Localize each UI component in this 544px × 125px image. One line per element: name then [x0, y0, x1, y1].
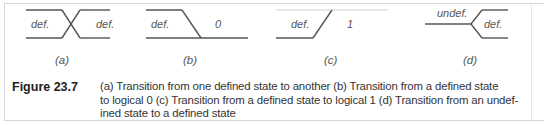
figure-number: Figure 23.7	[12, 80, 78, 94]
timing-transition-diagram: def. def. (a) def. 0 (b) def. 1 (c) unde…	[0, 0, 536, 70]
panel-d-sublabel: (d)	[463, 54, 477, 66]
panel-b-right-label: 0	[215, 18, 222, 30]
panel-c-right-label: 1	[347, 18, 353, 30]
panel-a-right-label: def.	[96, 18, 114, 30]
caption-line-1: (a) Transition from one defined state to…	[100, 80, 536, 94]
panel-a-sublabel: (a)	[55, 54, 69, 66]
caption-line-2: to logical 0 (c) Transition from a defin…	[100, 94, 536, 108]
panel-d-right-label: def.	[484, 18, 502, 30]
caption-line-3: ined state to a defined state	[100, 107, 536, 121]
panel-d-left-label: undef.	[437, 7, 468, 19]
panel-c-sublabel: (c)	[324, 54, 338, 66]
panel-c-left-label: def.	[291, 18, 309, 30]
panel-b-left-label: def.	[151, 18, 169, 30]
figure-caption: (a) Transition from one defined state to…	[100, 80, 536, 121]
panel-b-sublabel: (b)	[183, 54, 197, 66]
panel-a-left-label: def.	[31, 18, 49, 30]
